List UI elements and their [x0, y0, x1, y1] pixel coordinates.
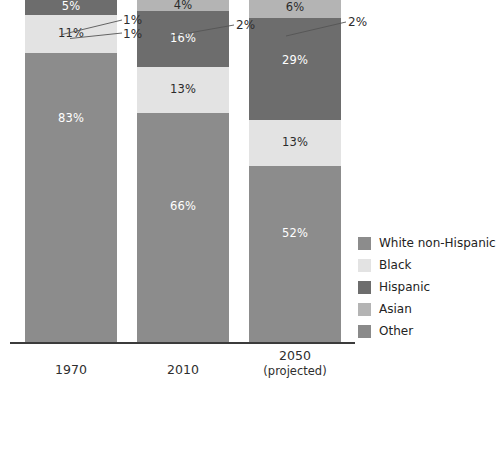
x-tick-2050: 2050 (projected) [249, 348, 341, 378]
legend-swatch-icon-asian [358, 303, 371, 316]
legend-swatch-icon-hispanic [358, 281, 371, 294]
segment-2050-white-non-hispanic[interactable]: 52% [249, 166, 341, 342]
legend-label-hispanic: Hispanic [379, 281, 430, 293]
legend-item-black[interactable]: Black [358, 254, 492, 276]
x-axis-line [10, 342, 355, 344]
segment-2010-black[interactable]: 13% [137, 67, 229, 113]
x-tick-2010-text: 2010 [167, 362, 199, 377]
segment-2050-black[interactable]: 13% [249, 120, 341, 166]
segment-label-2010-white-non-hispanic: 66% [137, 201, 229, 213]
legend-swatch-icon-black [358, 259, 371, 272]
x-tick-1970: 1970 [25, 362, 117, 378]
plot-area: 5% 11% 83% 4% [0, 0, 360, 400]
legend-swatch-icon-other [358, 325, 371, 338]
legend-label-other: Other [379, 325, 413, 337]
legend: White non-Hispanic Black Hispanic Asian … [358, 232, 492, 342]
callout-leader-lines [0, 0, 360, 60]
x-tick-2050-text: 2050 [279, 348, 311, 363]
segment-label-2010-black: 13% [137, 84, 229, 96]
segment-label-2050-white-non-hispanic: 52% [249, 228, 341, 240]
callout-2050-other: 2% [348, 16, 367, 28]
legend-item-asian[interactable]: Asian [358, 298, 492, 320]
callout-1970-asian: 1% [123, 28, 142, 40]
legend-label-black: Black [379, 259, 411, 271]
x-tick-2010: 2010 [137, 362, 229, 378]
callout-1970-other: 1% [123, 14, 142, 26]
segment-label-1970-white-non-hispanic: 83% [25, 113, 117, 125]
x-tick-2050-sublabel: (projected) [249, 364, 341, 378]
segment-1970-white-non-hispanic[interactable]: 83% [25, 53, 117, 342]
legend-label-white-non-hispanic: White non-Hispanic [379, 237, 496, 249]
legend-item-white-non-hispanic[interactable]: White non-Hispanic [358, 232, 492, 254]
legend-item-other[interactable]: Other [358, 320, 492, 342]
callout-2010-other: 2% [236, 19, 255, 31]
x-tick-1970-text: 1970 [55, 362, 87, 377]
legend-item-hispanic[interactable]: Hispanic [358, 276, 492, 298]
segment-label-2050-black: 13% [249, 137, 341, 149]
legend-label-asian: Asian [379, 303, 412, 315]
legend-swatch-icon-white-non-hispanic [358, 237, 371, 250]
segment-2010-white-non-hispanic[interactable]: 66% [137, 113, 229, 342]
